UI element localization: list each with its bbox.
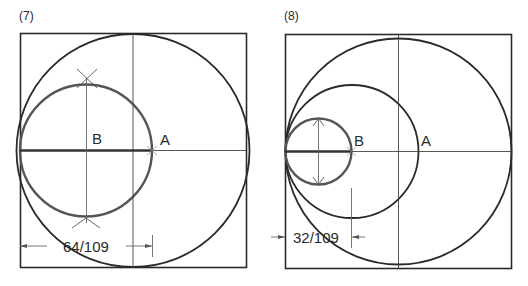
figure-7-label-b: B	[92, 130, 102, 147]
figure-7: (7) B A 64/109	[17, 9, 250, 268]
figure-8-arrow-right-icon	[278, 235, 285, 239]
figure-7-cross-mark-bottom	[72, 218, 86, 228]
figure-8-arrow-left-icon	[352, 235, 359, 239]
figure-7-label: (7)	[19, 9, 34, 23]
figure-8-label-b: B	[354, 132, 364, 149]
figure-8-dimension-text: 32/109	[293, 229, 339, 246]
figure-8-label: (8)	[284, 9, 299, 23]
figure-8: (8) B A 32/109	[271, 9, 512, 269]
figure-8-label-a: A	[421, 132, 431, 149]
geometry-diagram: (7) B A 64/109 (8)	[0, 0, 528, 286]
figure-7-label-a: A	[160, 131, 170, 148]
figure-7-dimension-text: 64/109	[63, 238, 109, 255]
figure-7-arrow-right-icon	[145, 244, 152, 248]
